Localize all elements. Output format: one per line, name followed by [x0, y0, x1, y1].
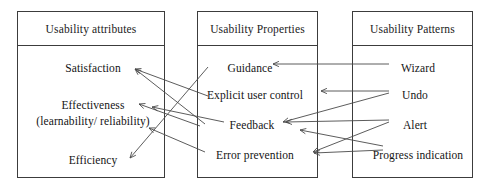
node-feedback: Feedback	[230, 119, 275, 132]
column-header-label: Usability Properties	[210, 23, 305, 35]
node-wizard: Wizard	[401, 62, 435, 75]
node-satisfaction: Satisfaction	[65, 62, 121, 75]
node-undo: Undo	[402, 89, 428, 102]
node-progress-indication: Progress indication	[373, 149, 463, 162]
column-header-usability-properties: Usability Properties	[198, 12, 317, 46]
diagram-canvas: Usability attributes Satisfaction Effect…	[0, 0, 493, 193]
column-header-usability-patterns: Usability Patterns	[353, 12, 472, 46]
node-effectiveness: Effectiveness	[61, 99, 124, 112]
node-effectiveness-sub: (learnability/ reliability)	[36, 114, 150, 129]
column-header-usability-attributes: Usability attributes	[18, 12, 164, 46]
node-explicit-user-control: Explicit user control	[207, 89, 303, 102]
node-alert: Alert	[403, 119, 427, 132]
column-header-label: Usability attributes	[46, 23, 137, 35]
node-error-prevention: Error prevention	[216, 149, 294, 162]
column-header-label: Usability Patterns	[370, 23, 455, 35]
node-guidance: Guidance	[228, 62, 273, 75]
column-box-usability-attributes: Usability attributes	[17, 11, 165, 178]
node-efficiency: Efficiency	[69, 154, 118, 167]
